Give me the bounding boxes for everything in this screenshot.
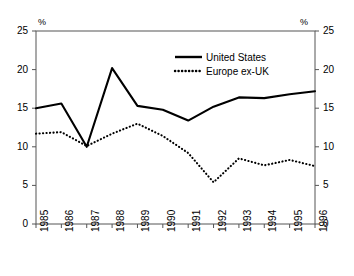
- x-tick-label: 1986: [65, 210, 75, 232]
- x-tick-label: 1992: [218, 210, 228, 232]
- x-tick-label: 1985: [40, 210, 50, 232]
- y-tick-label-right: 20: [323, 65, 345, 75]
- y-tick-label-right: 5: [323, 180, 345, 190]
- x-tick-label: 1990: [167, 210, 177, 232]
- y-tick-label-right: 10: [323, 142, 345, 152]
- x-tick-label: 1987: [91, 210, 101, 232]
- legend-label-united-states: United States: [206, 53, 266, 63]
- line-chart: % % United States Europe ex-UK 051015202…: [0, 0, 354, 276]
- y-tick-label-left: 10: [6, 142, 28, 152]
- y-axis-ticks-right: [315, 31, 319, 224]
- y-tick-label-left: 20: [6, 65, 28, 75]
- y-tick-label-right: 25: [323, 26, 345, 36]
- y-axis-ticks-left: [32, 31, 36, 224]
- y-tick-label-left: 25: [6, 26, 28, 36]
- x-tick-label: 1988: [116, 210, 126, 232]
- x-tick-label: 1991: [192, 210, 202, 232]
- y-tick-label-left: 0: [6, 219, 28, 229]
- legend-label-europe-ex-uk: Europe ex-UK: [206, 67, 269, 77]
- plot-frame: [36, 31, 315, 224]
- series-line-united-states: [36, 68, 315, 147]
- y-tick-label-left: 5: [6, 180, 28, 190]
- y-tick-label-right: 15: [323, 103, 345, 113]
- x-tick-label: 1989: [141, 210, 151, 232]
- x-tick-label: 1996: [319, 210, 329, 232]
- plot-area: [0, 0, 354, 276]
- x-tick-label: 1993: [243, 210, 253, 232]
- x-tick-label: 1994: [268, 210, 278, 232]
- x-tick-label: 1995: [294, 210, 304, 232]
- y-tick-label-left: 15: [6, 103, 28, 113]
